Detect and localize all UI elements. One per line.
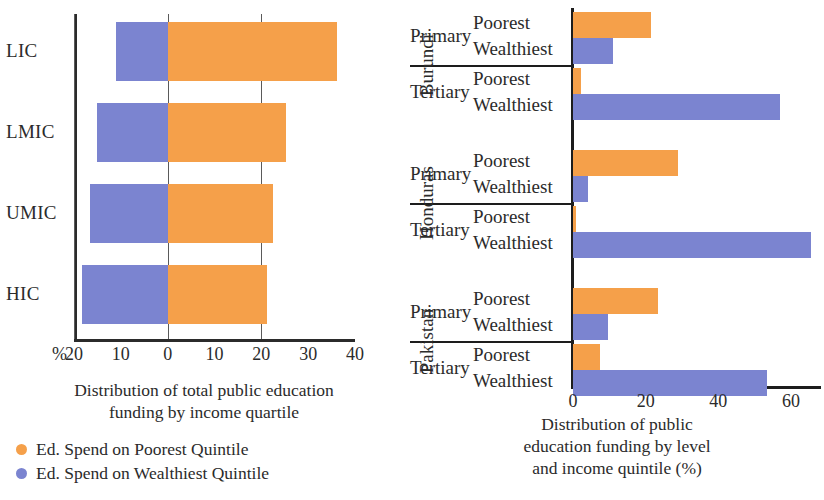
left-x-tick-30-5: 30 bbox=[288, 344, 328, 365]
right-bar-burundi-tertiary-wealthiest bbox=[573, 94, 780, 120]
right-caption-line-2: education funding by level bbox=[410, 436, 824, 458]
right-quintile-label-pakistan-tertiary-wealthiest: Wealthiest bbox=[473, 370, 553, 392]
right-x-tick-20: 20 bbox=[626, 391, 666, 412]
left-x-tick-10-1: 10 bbox=[101, 344, 141, 365]
right-bar-honduras-primary-wealthiest bbox=[573, 176, 588, 202]
right-quintile-label-honduras-primary-wealthiest: Wealthiest bbox=[473, 176, 553, 198]
left-x-tick-0-2: 0 bbox=[148, 344, 188, 365]
right-quintile-label-honduras-primary-poorest: Poorest bbox=[473, 150, 530, 172]
right-quintile-label-burundi-primary-wealthiest: Wealthiest bbox=[473, 38, 553, 60]
right-caption-line-3: and income quintile (%) bbox=[410, 458, 824, 480]
right-bar-burundi-primary-wealthiest bbox=[573, 38, 613, 64]
right-quintile-label-honduras-tertiary-wealthiest: Wealthiest bbox=[473, 232, 553, 254]
left-x-axis-unit-label: % bbox=[52, 344, 67, 365]
right-quintile-label-honduras-tertiary-poorest: Poorest bbox=[473, 206, 530, 228]
right-quintile-label-pakistan-tertiary-poorest: Poorest bbox=[473, 344, 530, 366]
right-quintile-label-pakistan-primary-wealthiest: Wealthiest bbox=[473, 314, 553, 336]
left-x-axis-line bbox=[74, 339, 355, 342]
right-bar-honduras-tertiary-poorest bbox=[573, 206, 576, 232]
right-bar-pakistan-primary-poorest bbox=[573, 288, 658, 314]
right-bar-honduras-primary-poorest bbox=[573, 150, 678, 176]
right-bar-burundi-primary-poorest bbox=[573, 12, 651, 38]
left-category-label-hic: HIC bbox=[6, 283, 40, 305]
left-x-tick-20-4: 20 bbox=[241, 344, 281, 365]
left-x-tick-10-3: 10 bbox=[195, 344, 235, 365]
left-caption-line-1: Distribution of total public education bbox=[4, 380, 404, 402]
left-x-tick-40-6: 40 bbox=[335, 344, 375, 365]
left-bar-poorest-umic bbox=[168, 184, 273, 243]
right-country-label-pakistan: Pakistan bbox=[416, 296, 438, 386]
right-bar-honduras-tertiary-wealthiest bbox=[573, 232, 811, 258]
right-x-tick-0: 0 bbox=[553, 391, 593, 412]
right-bar-pakistan-tertiary-poorest bbox=[573, 344, 600, 370]
left-gridline--20 bbox=[74, 14, 75, 339]
left-category-label-umic: UMIC bbox=[6, 202, 57, 224]
figure-root: LICLMICUMICHIC 2010010203040 % Distribut… bbox=[0, 0, 824, 500]
right-country-label-burundi: Burundi bbox=[416, 20, 438, 110]
legend-label-wealthiest: Ed. Spend on Wealthiest Quintile bbox=[36, 463, 269, 484]
left-category-label-lic: LIC bbox=[6, 40, 38, 62]
legend-item-wealthiest: Ed. Spend on Wealthiest Quintile bbox=[10, 461, 410, 485]
right-quintile-label-burundi-tertiary-wealthiest: Wealthiest bbox=[473, 94, 553, 116]
left-bar-wealthiest-hic bbox=[82, 265, 167, 324]
right-quintile-label-burundi-tertiary-poorest: Poorest bbox=[473, 68, 530, 90]
right-chart-caption: Distribution of public education funding… bbox=[410, 414, 824, 480]
left-caption-line-2: funding by income quartile bbox=[4, 402, 404, 424]
right-quintile-label-burundi-primary-poorest: Poorest bbox=[473, 12, 530, 34]
right-bar-pakistan-primary-wealthiest bbox=[573, 314, 608, 340]
left-plot-area: LICLMICUMICHIC 2010010203040 % bbox=[0, 6, 360, 336]
legend: Ed. Spend on Poorest QuintileEd. Spend o… bbox=[10, 437, 410, 485]
left-chart-caption: Distribution of total public education f… bbox=[4, 380, 404, 424]
legend-item-poorest: Ed. Spend on Poorest Quintile bbox=[10, 437, 410, 461]
right-country-label-honduras: Honduras bbox=[416, 158, 438, 248]
legend-dot-poorest bbox=[16, 444, 27, 455]
right-chart-panel: PoorestWealthiestPrimaryPoorestWealthies… bbox=[410, 0, 824, 500]
legend-label-poorest: Ed. Spend on Poorest Quintile bbox=[36, 439, 248, 460]
right-quintile-label-pakistan-primary-poorest: Poorest bbox=[473, 288, 530, 310]
legend-dot-wealthiest bbox=[16, 468, 27, 479]
left-bar-poorest-lic bbox=[168, 22, 338, 81]
left-bar-wealthiest-umic bbox=[90, 184, 167, 243]
right-plot-area: PoorestWealthiestPrimaryPoorestWealthies… bbox=[410, 0, 824, 400]
right-x-tick-40: 40 bbox=[698, 391, 738, 412]
right-caption-line-1: Distribution of public bbox=[410, 414, 824, 436]
left-bar-poorest-lmic bbox=[168, 103, 286, 162]
left-category-label-lmic: LMIC bbox=[6, 121, 55, 143]
left-chart-panel: LICLMICUMICHIC 2010010203040 % Distribut… bbox=[0, 0, 410, 500]
left-bar-wealthiest-lmic bbox=[97, 103, 167, 162]
right-bar-burundi-tertiary-poorest bbox=[573, 68, 581, 94]
right-x-tick-60: 60 bbox=[771, 391, 811, 412]
left-bar-poorest-hic bbox=[168, 265, 267, 324]
left-bar-wealthiest-lic bbox=[116, 22, 168, 81]
